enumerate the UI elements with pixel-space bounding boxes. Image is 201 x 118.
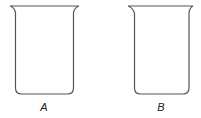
- beakers-diagram: A B: [0, 0, 201, 118]
- beaker-b-outline: [128, 6, 193, 94]
- beaker-a-label: A: [39, 101, 47, 113]
- beaker-a-outline: [10, 6, 79, 94]
- beaker-b: B: [128, 6, 193, 113]
- beaker-a: A: [10, 6, 79, 113]
- beaker-b-label: B: [157, 101, 164, 113]
